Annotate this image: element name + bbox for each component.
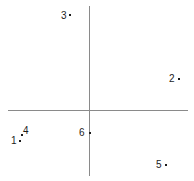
point-label-2: 2 — [169, 74, 175, 84]
point-label-3: 3 — [61, 11, 67, 21]
point-marker-5 — [165, 164, 167, 166]
point-marker-2 — [178, 78, 180, 80]
point-label-1: 1 — [11, 136, 17, 146]
x-axis-line — [8, 110, 188, 111]
point-label-4: 4 — [23, 126, 29, 136]
y-axis-line — [89, 6, 90, 176]
point-marker-6 — [89, 132, 91, 134]
point-marker-3 — [69, 14, 71, 16]
point-label-6: 6 — [79, 128, 85, 138]
point-label-5: 5 — [156, 160, 162, 170]
coordinate-plane-figure: 123456 — [0, 0, 194, 181]
point-marker-1 — [19, 140, 21, 142]
